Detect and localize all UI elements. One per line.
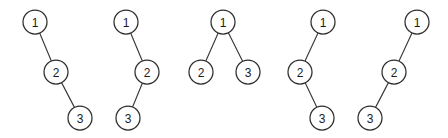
tree-2-node-label-2: 2: [144, 66, 151, 80]
tree-5-edge-2-3: [376, 83, 389, 108]
tree-2-node-label-1: 1: [123, 16, 130, 30]
tree-3-edge-1-2: [206, 33, 218, 61]
tree-5-edge-1-2: [399, 33, 412, 61]
tree-3-edge-1-3: [228, 33, 242, 62]
tree-1: 123: [23, 10, 92, 130]
tree-2-edge-1-2: [131, 33, 143, 61]
tree-2-node-label-3: 3: [125, 112, 132, 126]
tree-4-node-label-2: 2: [297, 66, 304, 80]
tree-3-node-label-2: 2: [198, 66, 205, 80]
tree-1-node-label-3: 3: [77, 112, 84, 126]
tree-3: 123: [189, 10, 260, 84]
tree-4-edge-2-3: [305, 83, 317, 107]
tree-5-node-label-3: 3: [367, 112, 374, 126]
tree-4-edge-1-2: [305, 33, 318, 61]
tree-1-node-label-2: 2: [53, 66, 60, 80]
tree-canvas: 123123123123123: [0, 0, 448, 138]
tree-5-node-label-1: 1: [414, 16, 421, 30]
tree-1-edge-1-2: [40, 33, 52, 61]
tree-4-node-label-1: 1: [320, 16, 327, 30]
tree-4: 123: [288, 10, 335, 130]
tree-5: 123: [358, 10, 429, 130]
binary-tree-diagram: 123123123123123: [0, 0, 448, 138]
tree-1-node-label-1: 1: [32, 16, 39, 30]
tree-2-edge-2-3: [133, 83, 143, 107]
tree-5-node-label-2: 2: [391, 66, 398, 80]
tree-2: 123: [114, 10, 159, 130]
tree-3-node-label-3: 3: [245, 66, 252, 80]
tree-1-edge-2-3: [62, 83, 75, 108]
tree-3-node-label-1: 1: [220, 16, 227, 30]
tree-4-node-label-3: 3: [319, 112, 326, 126]
